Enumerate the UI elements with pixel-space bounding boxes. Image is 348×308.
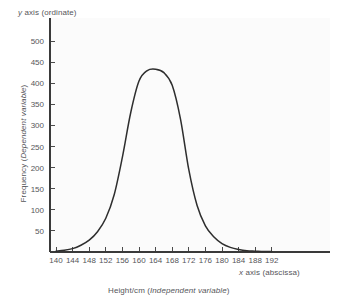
x-tick-label-3: 152: [99, 256, 113, 265]
x-tick-label-0: 140: [49, 256, 63, 265]
x-tick-label-4: 156: [116, 256, 130, 265]
y-tick-label-2: 150: [31, 185, 45, 194]
y-tick-label-7: 400: [31, 79, 45, 88]
x-tick-label-12: 188: [249, 256, 263, 265]
chart-figure: y axis (ordinate) x axis (abscissa) Heig…: [0, 0, 348, 308]
y-tick-label-9: 500: [31, 37, 45, 46]
y-tick-label-3: 200: [31, 164, 45, 173]
y-tick-label-0: 50: [35, 227, 44, 236]
x-tick-label-9: 176: [199, 256, 213, 265]
y-tick-label-4: 250: [31, 143, 45, 152]
x-tick-label-2: 148: [83, 256, 97, 265]
distribution-curve: [56, 69, 272, 252]
y-tick-label-5: 300: [31, 121, 45, 130]
x-tick-label-13: 192: [265, 256, 279, 265]
x-axis-ticks: 1401441481521561601641681721761801841881…: [49, 247, 279, 265]
y-axis-ticks: 50100150200250300350400450500: [31, 37, 55, 236]
x-tick-label-1: 144: [66, 256, 80, 265]
x-tick-label-11: 184: [232, 256, 246, 265]
x-tick-label-5: 160: [132, 256, 146, 265]
x-tick-label-7: 168: [166, 256, 180, 265]
y-tick-label-8: 450: [31, 58, 45, 67]
chart-svg: 50100150200250300350400450500 1401441481…: [0, 0, 348, 308]
x-tick-label-8: 172: [182, 256, 196, 265]
x-tick-label-6: 164: [149, 256, 163, 265]
x-tick-label-10: 180: [215, 256, 229, 265]
y-tick-label-1: 100: [31, 206, 45, 215]
y-tick-label-6: 350: [31, 100, 45, 109]
